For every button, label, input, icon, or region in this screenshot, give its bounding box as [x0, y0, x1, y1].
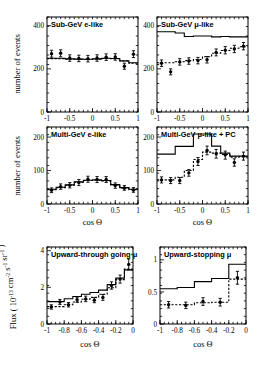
x-tick-label: -0.5	[174, 115, 186, 123]
mc-oscillation-histogram	[47, 58, 138, 63]
data-point	[132, 188, 135, 191]
data-point	[86, 178, 89, 181]
data-point	[104, 178, 107, 181]
x-tick-label: 1	[246, 115, 250, 123]
data-point	[59, 52, 62, 55]
data-point	[233, 161, 236, 164]
x-tick-label: -0.8	[172, 327, 184, 335]
y-tick-label: 0	[150, 109, 154, 117]
data-point	[95, 178, 98, 181]
x-tick-label: -0.6	[76, 327, 88, 335]
x-tick-label: 0	[201, 207, 205, 215]
data-point	[184, 304, 187, 307]
data-point	[123, 186, 126, 189]
y-tick-label: 4	[40, 247, 44, 255]
y-tick-label: 100	[143, 167, 154, 175]
panel-frame	[47, 127, 138, 204]
y-tick-label: 0	[150, 201, 154, 209]
y-tick-label: 200	[143, 134, 154, 142]
panel-sub-gev-mu-like: -1-0.500.510200400Sub-GeV μ-like	[143, 17, 250, 123]
data-point	[50, 305, 53, 308]
x-tick-label: 0.5	[111, 207, 120, 215]
data-point	[132, 52, 135, 55]
data-point	[214, 51, 217, 54]
data-point	[77, 181, 80, 184]
data-point	[167, 303, 170, 306]
x-tick-label: 1	[136, 115, 140, 123]
x-tick-label: -1	[154, 207, 160, 215]
panel-title: Upward-stopping μ	[164, 250, 232, 259]
data-point	[196, 160, 199, 163]
panel-title: Sub-GeV e-like	[51, 20, 103, 29]
x-tick-label: -0.5	[64, 115, 76, 123]
y-tick-label: 0.5	[148, 289, 157, 297]
data-series	[50, 176, 135, 192]
y-tick-label: 2	[40, 284, 44, 292]
panel-multi-gev-mu-like-pc: -1-0.500.510100200Multi-GeV μ-like + PC	[143, 127, 250, 215]
data-point	[233, 47, 236, 50]
data-point	[77, 57, 80, 60]
data-point	[114, 55, 117, 58]
x-tick-label: 0	[91, 207, 95, 215]
panel-title: Sub-GeV μ-like	[161, 20, 214, 29]
data-point	[104, 55, 107, 58]
x-tick-label: -0.6	[189, 327, 201, 335]
y-tick-label: 200	[143, 65, 154, 73]
y-tick-label: 0	[40, 201, 44, 209]
y-tick-label: 0	[40, 321, 44, 329]
data-point	[84, 297, 87, 300]
data-point	[160, 178, 163, 181]
x-tick-label: -0.5	[174, 207, 186, 215]
data-point	[187, 171, 190, 174]
data-point	[242, 44, 245, 47]
data-point	[178, 179, 181, 182]
data-point	[160, 62, 163, 65]
data-point	[101, 296, 104, 299]
x-tick-label: 1	[246, 207, 250, 215]
data-point	[75, 298, 78, 301]
x-tick-label: -1	[44, 207, 50, 215]
data-point	[123, 65, 126, 68]
data-point	[58, 300, 61, 303]
data-point	[187, 59, 190, 62]
data-point	[95, 56, 98, 59]
panel-frame	[47, 247, 133, 324]
data-point	[178, 60, 181, 63]
panel-upward-stopping-mu: -1-0.8-0.6-0.4-0.2000.51Upward-stopping …	[148, 247, 248, 335]
y-tick-label: 0	[153, 321, 157, 329]
y-tick-label: 400	[143, 22, 154, 30]
x-tick-label: 0.5	[221, 115, 230, 123]
data-point	[224, 49, 227, 52]
x-tick-label: -0.2	[223, 327, 235, 335]
x-axis-title: cos Θ	[80, 340, 99, 349]
x-tick-label: -0.5	[64, 207, 76, 215]
panel-sub-gev-e-like: -1-0.500.510200400Sub-GeV e-like	[33, 17, 140, 123]
data-point	[93, 298, 96, 301]
data-point	[110, 284, 113, 287]
data-point	[236, 276, 239, 279]
data-point	[169, 70, 172, 73]
x-tick-label: -1	[154, 115, 160, 123]
y-axis-title-events: number of events	[12, 136, 22, 196]
y-tick-label: 1	[153, 256, 157, 264]
data-point	[68, 56, 71, 59]
data-point	[50, 189, 53, 192]
data-point	[205, 149, 208, 152]
data-point	[196, 59, 199, 62]
y-axis-title-events: number of events	[12, 34, 22, 94]
data-point	[68, 184, 71, 187]
x-tick-label: -0.4	[93, 327, 105, 335]
panel-multi-gev-e-like: -1-0.500.510100200Multi-GeV e-like	[33, 127, 140, 215]
x-tick-label: 0.5	[221, 207, 230, 215]
x-tick-label: -0.4	[206, 327, 218, 335]
data-point	[205, 58, 208, 61]
x-tick-label: 0	[244, 327, 248, 335]
data-point	[127, 263, 130, 266]
x-tick-label: -1	[157, 327, 163, 335]
mc-no-oscillation-histogram	[157, 32, 248, 37]
data-point	[214, 152, 217, 155]
panel-frame	[160, 247, 246, 324]
x-tick-label: 0.5	[111, 115, 120, 123]
data-point	[67, 303, 70, 306]
atmospheric-neutrino-zenith-angle-figure: -1-0.500.510200400Sub-GeV e-like-1-0.500…	[0, 0, 263, 375]
